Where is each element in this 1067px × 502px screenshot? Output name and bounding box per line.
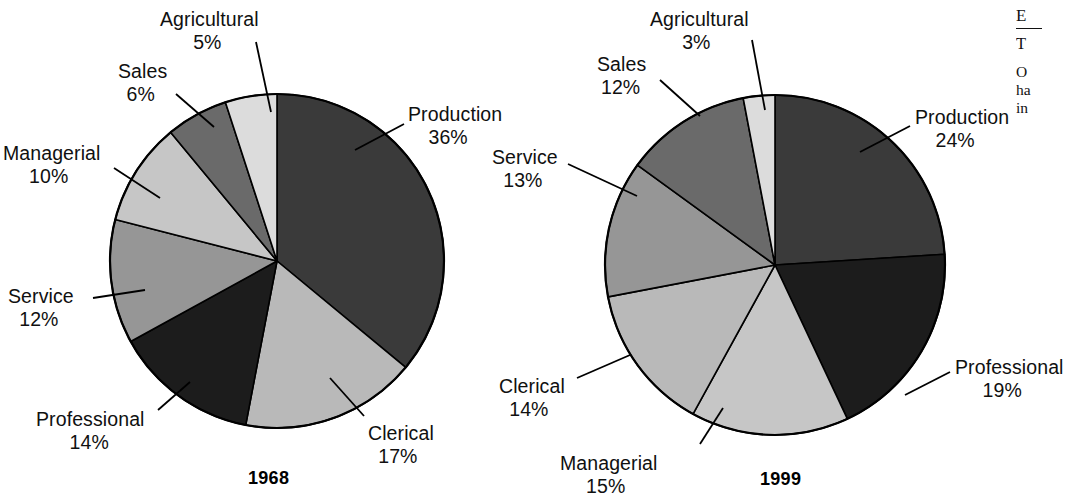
label-clerical-1999: Clerical 14% [499,375,565,421]
label-name: Agricultural [650,8,749,30]
label-name: Managerial [560,452,657,474]
label-pct: 13% [492,169,558,192]
label-pct: 24% [915,129,1009,152]
label-service-1999: Service 13% [492,146,558,192]
sidebar-body-line: O [1016,63,1067,81]
label-sales-1999: Sales 12% [597,53,646,99]
label-agricultural-1999: Agricultural 3% [650,8,749,54]
leader-sales-1999 [660,80,700,116]
label-name: Sales [597,53,646,75]
sidebar-heading: E [1016,6,1042,29]
label-pct: 15% [560,475,657,498]
label-pct: 19% [955,379,1064,402]
label-managerial-1999: Managerial 15% [560,452,657,498]
label-name: Service [492,146,558,168]
label-pct: 14% [499,398,565,421]
sidebar-subheading: T [1016,33,1067,54]
pie-chart-1999 [500,0,1020,502]
label-name: Production [915,106,1009,128]
sidebar-body-line: in [1016,99,1067,117]
leader-professional-1999 [905,372,950,395]
chart-year-1999: 1999 [760,469,801,490]
label-pct: 12% [597,76,646,99]
sidebar-body: O ha in [1016,63,1067,117]
leader-clerical-1999 [577,355,630,378]
label-name: Clerical [499,375,565,397]
label-professional-1999: Professional 19% [955,356,1064,402]
pie-slices [605,95,945,435]
label-pct: 3% [650,31,749,54]
label-production-1999: Production 24% [915,106,1009,152]
sidebar-body-line: ha [1016,81,1067,99]
label-name: Professional [955,356,1064,378]
sidebar-text-column: E T O ha in [1016,6,1067,117]
